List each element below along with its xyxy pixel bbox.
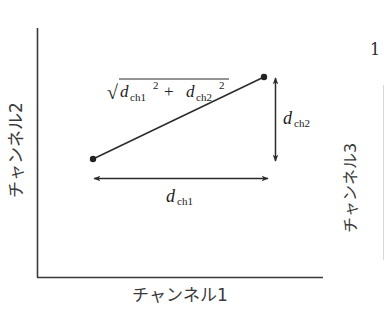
distance-formula: √ d ch1 2 + d ch2 2 (107, 79, 229, 103)
formula-d1-sub: ch1 (130, 91, 146, 103)
formula-d1: d (120, 82, 129, 101)
formula-d2-sub: ch2 (196, 91, 212, 103)
point-b (261, 74, 267, 80)
formula-d2-sup: 2 (219, 79, 225, 91)
dch1-d: d (166, 186, 176, 206)
point-a (90, 156, 96, 162)
dch2-sub: ch2 (294, 117, 310, 129)
adjacent-number: 1 (370, 40, 380, 59)
adjacent-figure-fragment: 1 チャンネル3 (341, 40, 384, 260)
dch2-d: d (283, 108, 293, 128)
formula-d1-sup: 2 (153, 79, 159, 91)
channel-distance-diagram: チャンネル1 チャンネル2 √ d ch1 2 + d ch2 2 d ch1 … (0, 0, 384, 321)
dch2-label: d ch2 (283, 108, 310, 129)
adjacent-y-axis-label: チャンネル3 (341, 143, 360, 233)
y-axis-label: チャンネル2 (6, 102, 26, 198)
distance-segment (93, 77, 264, 159)
formula-plus: + (164, 82, 174, 101)
sqrt-sign: √ (107, 81, 118, 103)
x-axis-label: チャンネル1 (132, 285, 228, 305)
dch1-sub: ch1 (177, 195, 193, 207)
formula-d2: d (186, 82, 195, 101)
dch1-label: d ch1 (166, 186, 193, 207)
axes (37, 28, 323, 278)
